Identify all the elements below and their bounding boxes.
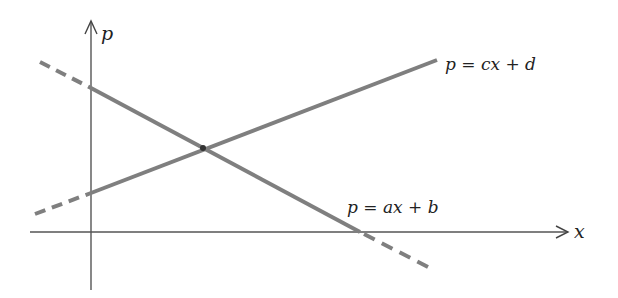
- intersection-point: [200, 145, 206, 151]
- line-cx-plus-d: [35, 60, 437, 214]
- x-axis: [30, 226, 568, 238]
- x-axis-label: x: [574, 220, 585, 242]
- line-label-cx-plus-d: p = cx + d: [445, 54, 536, 74]
- line-label-ax-plus-b: p = ax + b: [347, 197, 439, 217]
- y-axis: [85, 21, 97, 290]
- graph-canvas: p x p = cx + d p = ax + b: [0, 0, 618, 298]
- y-axis-label: p: [101, 22, 113, 44]
- line-ax-plus-b: [40, 62, 428, 267]
